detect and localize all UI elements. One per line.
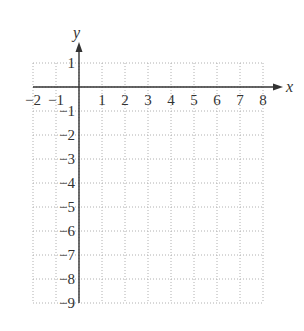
tick-labels: −2−1123456781−1−2−3−4−5−6−7−8−9 [25,55,267,311]
x-axis-label: x [285,78,293,95]
x-tick-label: 6 [213,92,221,108]
y-tick-label: −9 [59,295,75,311]
y-tick-label: −3 [59,151,75,167]
x-tick-label: 1 [98,92,106,108]
x-tick-label: −2 [25,92,41,108]
axes [33,42,283,303]
y-tick-label: −4 [59,175,75,191]
x-tick-label: 4 [167,92,175,108]
x-tick-label: 7 [236,92,244,108]
coordinate-grid: −2−1123456781−1−2−3−4−5−6−7−8−9 x y [0,0,304,331]
y-axis-arrow-icon [76,42,83,52]
y-tick-label: 1 [68,55,76,71]
y-tick-label: −8 [59,271,75,287]
x-tick-label: 3 [144,92,152,108]
y-axis-label: y [71,24,81,42]
y-tick-label: −5 [59,199,75,215]
y-tick-label: −6 [59,223,75,239]
y-tick-label: −2 [59,127,75,143]
x-tick-label: 8 [259,92,267,108]
x-tick-label: 5 [190,92,198,108]
x-axis-arrow-icon [273,84,283,91]
y-tick-label: −7 [59,247,75,263]
y-tick-label: −1 [59,103,75,119]
x-tick-label: 2 [121,92,129,108]
